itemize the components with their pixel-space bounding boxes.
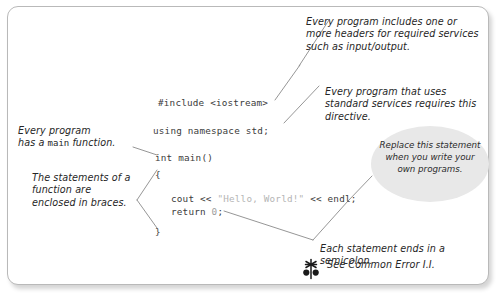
annotation-braces: The statements of a function are enclose…: [32, 172, 132, 209]
code-line-using: using namespace std;: [153, 125, 269, 136]
code-line-close-brace: }: [155, 226, 161, 237]
annotated-code-figure: #include <iostream> using namespace std;…: [0, 0, 499, 298]
code-line-cout: cout << "Hello, World!" << endl;: [171, 193, 357, 204]
code-cout-string: "Hello, World!": [217, 193, 304, 204]
code-cout-suffix: << endl;: [304, 193, 356, 204]
annotation-headers: Every program includes one or more heade…: [306, 16, 481, 53]
common-error-flower-icon: [301, 258, 321, 280]
code-return-suffix: ;: [217, 206, 223, 217]
code-cout-prefix: cout <<: [171, 193, 217, 204]
replace-statement-callout: Replace this statement when you write yo…: [371, 126, 489, 202]
annotation-main-line1: Every program: [18, 125, 91, 136]
annotation-directive: Every program that uses standard service…: [325, 86, 490, 123]
code-line-return: return 0;: [171, 206, 223, 217]
code-line-include: #include <iostream>: [158, 97, 268, 108]
annotation-main-line2a: has a: [18, 137, 48, 148]
code-line-main: int main(): [155, 152, 213, 163]
code-return-prefix: return: [171, 206, 212, 217]
annotation-main-line2b: function.: [69, 137, 115, 148]
annotation-common-error: See Common Error I.I.: [327, 259, 487, 271]
callout-text: Replace this statement when you write yo…: [379, 139, 481, 176]
annotation-main-mono: main: [48, 138, 70, 148]
code-line-open-brace: {: [155, 169, 161, 180]
annotation-main-function: Every programhas a main function.: [18, 125, 143, 150]
